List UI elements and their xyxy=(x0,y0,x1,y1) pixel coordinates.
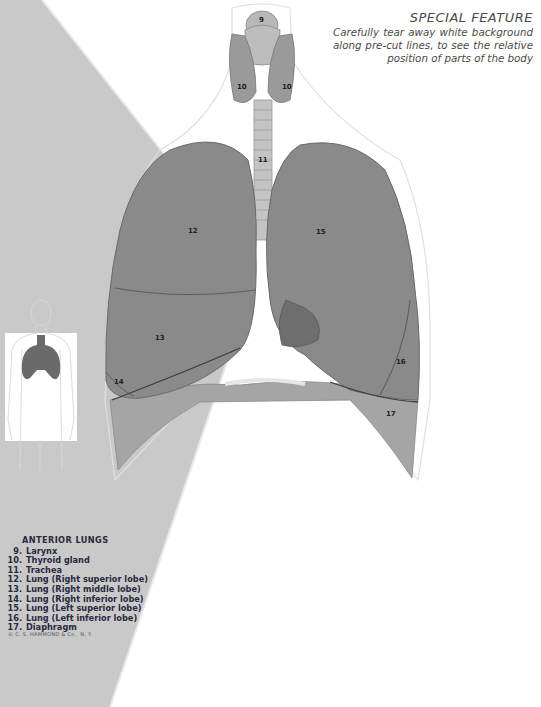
copyright: © C. S. HAMMOND & Co., N. Y. xyxy=(8,631,92,637)
legend: ANTERIOR LUNGS 9.Larynx 10.Thyroid gland… xyxy=(6,536,148,633)
legend-title: ANTERIOR LUNGS xyxy=(6,536,148,546)
